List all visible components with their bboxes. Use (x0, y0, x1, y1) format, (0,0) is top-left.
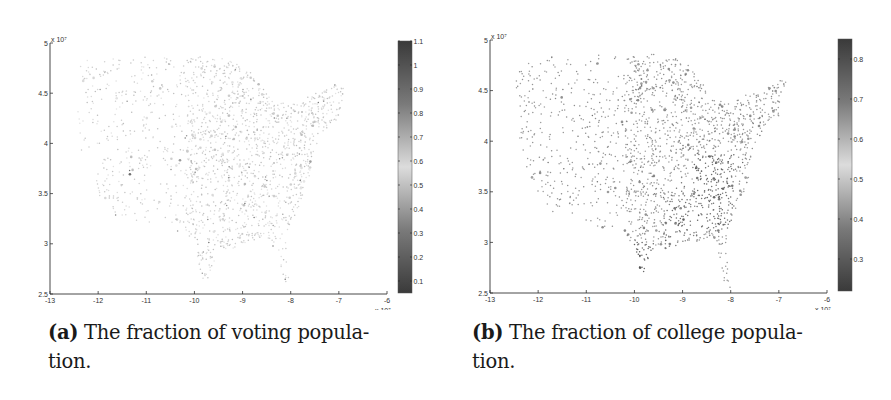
colorbar-tick-label: 0.6 (414, 158, 424, 165)
colorbar-tick-label: 0.2 (414, 254, 424, 261)
scatter-points (516, 54, 787, 288)
figure-panel-b: -13-12-11-10-9-8-7-62.533.544.55x 10⁷x 1… (440, 0, 885, 310)
x-tick-label: -12 (533, 296, 543, 303)
x-tick-label: -12 (93, 297, 103, 304)
colorbar-tick-label: 0.5 (414, 182, 424, 189)
x-tick-label: -13 (45, 297, 55, 304)
x-tick-label: -11 (141, 297, 151, 304)
figure-panel-a: -13-12-11-10-9-8-7-62.533.544.55x 10⁷x 1… (0, 0, 445, 310)
colorbar: 0.30.40.50.60.70.8 (838, 39, 863, 291)
colorbar-tick-label: 0.5 (854, 176, 864, 183)
x-tick-label: -6 (824, 296, 830, 303)
colorbar-tick-label: 0.7 (854, 96, 864, 103)
y-tick-label: 3 (484, 239, 488, 246)
colorbar-tick-label: 0.3 (854, 256, 864, 263)
y-tick-label: 4.5 (38, 90, 48, 97)
caption-a-text-cont: tion. (48, 350, 91, 373)
caption-b-text: The fraction of college popula- (503, 321, 802, 344)
x-axis-multiplier: x 10⁷ (815, 306, 831, 310)
colorbar-tick-label: 0.4 (414, 206, 424, 213)
y-tick-label: 4 (484, 138, 488, 145)
colorbar-tick-label: 1.1 (414, 38, 424, 45)
colorbar-tick-label: 0.3 (414, 230, 424, 237)
x-tick-label: -10 (629, 296, 639, 303)
colorbar-tick-label: 0.4 (854, 216, 864, 223)
caption-a: (a) The fraction of voting popula- tion. (48, 318, 428, 376)
x-tick-label: -10 (189, 297, 199, 304)
colorbar-tick-label: 0.1 (414, 278, 424, 285)
x-tick-label: -6 (384, 297, 390, 304)
colorbar-tick-label: 0.8 (414, 110, 424, 117)
x-axis-multiplier: x 10⁷ (375, 307, 391, 310)
x-tick-label: -8 (288, 297, 294, 304)
x-tick-label: -13 (485, 296, 495, 303)
x-tick-label: -9 (239, 297, 245, 304)
colorbar-tick-label: 0.6 (854, 136, 864, 143)
y-tick-label: 3.5 (38, 190, 48, 197)
y-axis-multiplier: x 10⁷ (51, 36, 67, 43)
y-tick-label: 5 (44, 40, 48, 47)
x-tick-label: -7 (776, 296, 782, 303)
y-axis-multiplier: x 10⁷ (491, 33, 507, 40)
y-tick-label: 2.5 (38, 291, 48, 298)
y-tick-label: 3.5 (478, 188, 488, 195)
colorbar: 0.10.20.30.40.50.60.70.80.911.1 (398, 38, 423, 294)
y-tick-label: 2.5 (478, 290, 488, 297)
y-tick-label: 4 (44, 140, 48, 147)
caption-b: (b) The fraction of college popula- tion… (472, 318, 872, 376)
y-tick-label: 5 (484, 37, 488, 44)
caption-a-label: (a) (48, 321, 78, 344)
colorbar-tick-label: 1 (414, 62, 418, 69)
scatter-points (77, 56, 344, 282)
caption-b-text-cont: tion. (472, 350, 515, 373)
caption-b-label: (b) (472, 321, 503, 344)
plot-axes: -13-12-11-10-9-8-7-62.533.544.55x 10⁷x 1… (478, 33, 831, 310)
caption-a-text: The fraction of voting popula- (78, 321, 369, 344)
x-tick-label: -8 (728, 296, 734, 303)
colorbar-tick-label: 0.7 (414, 134, 424, 141)
y-tick-label: 3 (44, 240, 48, 247)
x-tick-label: -11 (581, 296, 591, 303)
colorbar-tick-label: 0.8 (854, 56, 864, 63)
scatter-map-plot-b: -13-12-11-10-9-8-7-62.533.544.55x 10⁷x 1… (440, 0, 891, 310)
y-tick-label: 4.5 (478, 87, 488, 94)
x-tick-label: -9 (679, 296, 685, 303)
x-tick-label: -7 (336, 297, 342, 304)
scatter-map-plot-a: -13-12-11-10-9-8-7-62.533.544.55x 10⁷x 1… (0, 0, 445, 310)
colorbar-tick-label: 0.9 (414, 86, 424, 93)
